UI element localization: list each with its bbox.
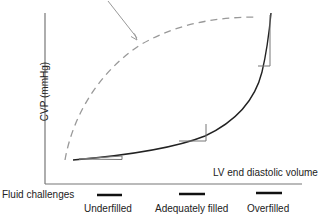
slope-triangle-underfilled <box>79 156 122 160</box>
x-axis-label: LV end diastolic volume <box>213 167 318 178</box>
solid-curve <box>73 13 271 160</box>
category-adequately-filled: Adequately filled <box>155 203 228 214</box>
category-overfilled: Overfilled <box>247 203 289 214</box>
y-axis-label: CVP (mmHg) <box>39 57 50 127</box>
dashed-curve <box>65 17 258 160</box>
fluid-challenges-label: Fluid challenges <box>2 189 74 200</box>
fluid-challenge-bars <box>97 193 282 195</box>
category-underfilled: Underfilled <box>84 203 132 214</box>
arrow-icon <box>108 1 137 40</box>
slope-triangle-adequate <box>179 124 206 141</box>
